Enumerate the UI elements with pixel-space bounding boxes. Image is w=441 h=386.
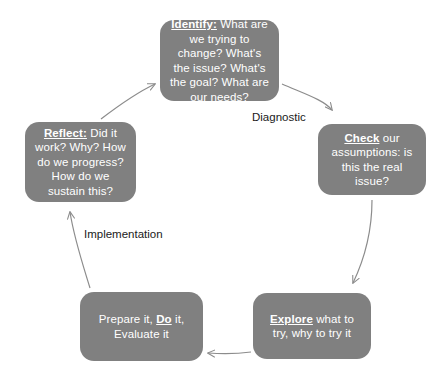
node-reflect-lead: Reflect: (44, 127, 87, 139)
node-reflect: Reflect: Did it work? Why? How do we pro… (25, 122, 136, 202)
node-do: Prepare it, Do it, Evaluate it (80, 292, 203, 361)
arrow-explore-to-do (208, 352, 251, 354)
node-check: Check our assumptions: is this the real … (318, 124, 426, 195)
arrow-reflect-to-identify (101, 84, 155, 119)
phase-label-diagnostic: Diagnostic (252, 111, 306, 123)
node-identify-lead: Identify: (171, 18, 217, 30)
arrow-do-to-reflect (70, 212, 90, 288)
cycle-diagram: Identify: What are we trying to change? … (0, 0, 441, 386)
phase-label-implementation: Implementation (84, 228, 163, 240)
node-explore-text: Explore what to try, why to try it (261, 312, 363, 341)
node-do-pre: Prepare it, (99, 313, 156, 325)
node-reflect-text: Reflect: Did it work? Why? How do we pro… (33, 126, 128, 199)
node-do-text: Prepare it, Do it, Evaluate it (88, 312, 195, 341)
node-identify-text: Identify: What are we trying to change? … (168, 17, 271, 104)
node-identify: Identify: What are we trying to change? … (160, 20, 279, 101)
arrow-check-to-explore (353, 200, 372, 283)
node-check-lead: Check (344, 132, 379, 144)
node-check-text: Check our assumptions: is this the real … (326, 131, 418, 189)
arrow-identify-to-check (282, 84, 332, 110)
node-explore: Explore what to try, why to try it (253, 293, 371, 359)
node-explore-lead: Explore (270, 313, 313, 325)
node-identify-body: What are we trying to change? What's the… (170, 18, 269, 103)
node-do-lead: Do (156, 313, 172, 325)
